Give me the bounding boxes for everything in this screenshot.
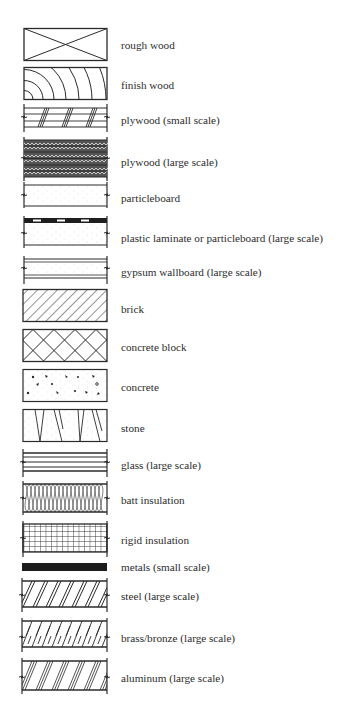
- legend-label: steel (large scale): [121, 589, 199, 603]
- legend-label: batt insulation: [121, 493, 185, 507]
- legend-label: stone: [121, 421, 145, 435]
- legend-label: glass (large scale): [121, 458, 201, 472]
- plywood-small-icon: [18, 104, 110, 132]
- legend-label: finish wood: [121, 78, 174, 92]
- legend-label: plastic laminate or particleboard (large…: [121, 231, 323, 245]
- legend-label: metals (small scale): [121, 560, 210, 574]
- batt-insulation-icon: [18, 481, 110, 515]
- steel-large-icon: [18, 578, 110, 612]
- legend-label: plywood (small scale): [121, 113, 220, 127]
- legend-label: particleboard: [121, 191, 180, 205]
- rigid-insulation-icon: [18, 521, 110, 557]
- brass-bronze-large-icon: [18, 618, 110, 652]
- legend-label: concrete: [121, 380, 159, 394]
- legend-label: rigid insulation: [121, 533, 189, 547]
- plastic-laminate-icon: [18, 216, 110, 248]
- concrete-icon: [18, 369, 110, 403]
- plywood-large-icon: [18, 137, 110, 181]
- concrete-block-icon: [18, 329, 110, 363]
- brick-icon: [18, 289, 110, 323]
- rough-wood-icon: [18, 28, 110, 62]
- legend-label: concrete block: [121, 340, 187, 354]
- legend-label: brass/bronze (large scale): [121, 631, 235, 645]
- legend-label: brick: [121, 302, 144, 316]
- legend-label: aluminum (large scale): [121, 671, 224, 685]
- particleboard-icon: [18, 182, 110, 208]
- aluminum-large-icon: [18, 658, 110, 694]
- legend-label: rough wood: [121, 38, 175, 52]
- legend-label: plywood (large scale): [121, 155, 218, 169]
- finish-wood-icon: [18, 67, 110, 101]
- legend-label: gypsum wallboard (large scale): [121, 265, 262, 279]
- gypsum-wallboard-icon: [18, 256, 110, 284]
- glass-icon: [18, 449, 110, 477]
- metals-small-icon: [18, 562, 110, 572]
- stone-icon: [18, 409, 110, 443]
